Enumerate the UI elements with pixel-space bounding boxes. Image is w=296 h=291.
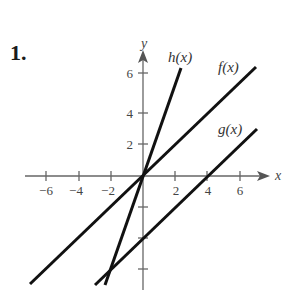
y-tick-label: 4 (127, 106, 134, 121)
x-axis-label: x (274, 168, 282, 183)
y-tick-label: 2 (127, 137, 134, 152)
x-tick-label: −2 (101, 183, 115, 198)
label-h: h(x) (168, 49, 192, 66)
x-tick-label: 2 (173, 183, 180, 198)
coordinate-plot: −6 −4 −2 2 4 6 6 4 2 x y h(x) f(x) g(x) (0, 0, 296, 291)
label-f: f(x) (218, 59, 239, 76)
x-tick-label: −4 (69, 183, 83, 198)
x-tick-label: −6 (39, 183, 53, 198)
label-g: g(x) (218, 121, 242, 138)
line-g (95, 129, 257, 285)
y-tick-label: 6 (127, 66, 134, 81)
x-tick-label: 6 (237, 183, 244, 198)
x-tick-label: 4 (205, 183, 212, 198)
y-axis-label: y (139, 36, 148, 51)
